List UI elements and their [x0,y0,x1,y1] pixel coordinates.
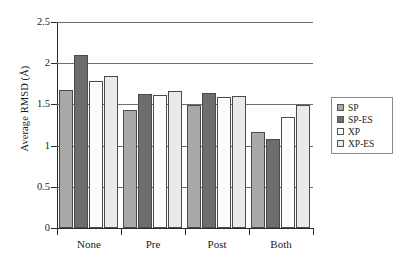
x-tick-mark [249,229,250,235]
y-tick-label: 1 [10,141,50,152]
bar-both-sp[interactable] [251,132,265,228]
bar-pre-sp-es[interactable] [138,94,152,228]
y-tick-label: 0 [10,223,50,234]
bar-both-xp[interactable] [281,117,295,228]
x-tick-label-pre: Pre [118,238,188,250]
legend: SPSP-ESXPXP-ES [331,97,393,154]
bar-none-sp[interactable] [59,90,73,228]
bar-group-both [251,22,311,228]
y-tick-label: 2.5 [10,17,50,28]
bar-chart: Average RMSD (Å) 00.511.522.5 NonePrePos… [0,0,402,265]
legend-swatch-icon [337,116,344,123]
bar-group-post [187,22,247,228]
legend-label: XP [348,127,360,137]
legend-item-sp-es[interactable]: SP-ES [337,114,388,125]
bar-post-xp-es[interactable] [232,96,246,228]
bar-pre-xp-es[interactable] [168,91,182,228]
bar-none-sp-es[interactable] [74,55,88,228]
legend-item-sp[interactable]: SP [337,102,388,113]
x-tick-label-both: Both [246,238,316,250]
legend-swatch-icon [337,140,344,147]
legend-label: SP-ES [348,115,373,125]
x-tick-mark [185,229,186,235]
x-tick-mark [121,229,122,235]
legend-swatch-icon [337,128,344,135]
bar-pre-xp[interactable] [153,95,167,228]
bar-both-sp-es[interactable] [266,139,280,228]
y-tick-label: 0.5 [10,182,50,193]
x-tick-mark [313,229,314,235]
bar-group-pre [123,22,183,228]
bar-none-xp-es[interactable] [104,76,118,228]
y-tick-label: 2 [10,58,50,69]
bar-none-xp[interactable] [89,81,103,228]
y-tick-label: 1.5 [10,99,50,110]
legend-item-xp-es[interactable]: XP-ES [337,138,388,149]
bar-group-none [59,22,119,228]
bar-post-sp[interactable] [187,105,201,228]
x-tick-mark [57,229,58,235]
plot-area [57,22,313,228]
legend-item-xp[interactable]: XP [337,126,388,137]
legend-label: SP [348,103,359,113]
bar-post-sp-es[interactable] [202,93,216,228]
x-tick-label-post: Post [182,238,252,250]
legend-swatch-icon [337,104,344,111]
bar-pre-sp[interactable] [123,110,137,228]
legend-label: XP-ES [348,139,374,149]
x-tick-label-none: None [54,238,124,250]
bar-both-xp-es[interactable] [296,105,310,228]
bar-post-xp[interactable] [217,97,231,228]
